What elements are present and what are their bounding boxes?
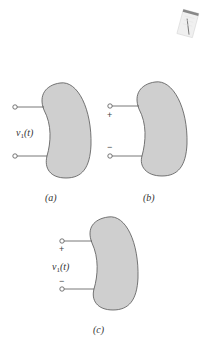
panel-a: v1(t) (a) xyxy=(13,83,91,204)
voltage-label: v1(t) xyxy=(52,261,70,274)
caption-a: (a) xyxy=(45,192,57,204)
terminal-bottom[interactable] xyxy=(108,154,112,158)
terminal-top[interactable] xyxy=(108,104,112,108)
minus-sign: − xyxy=(59,276,64,286)
circuit-figure: v1(t) (a) + − (b) + v1(t) − (c) xyxy=(0,0,211,339)
terminal-top[interactable] xyxy=(60,239,64,243)
voltage-label: v1(t) xyxy=(16,127,34,140)
panel-b: + − (b) xyxy=(107,82,187,204)
notepad-icon[interactable] xyxy=(177,9,199,37)
minus-sign: − xyxy=(107,142,112,152)
caption-c: (c) xyxy=(93,324,105,336)
plus-sign: + xyxy=(107,110,112,120)
plus-sign: + xyxy=(59,244,64,254)
caption-b: (b) xyxy=(143,192,155,204)
terminal-bottom[interactable] xyxy=(60,287,64,291)
network-blob xyxy=(42,83,91,178)
terminal-bottom[interactable] xyxy=(13,154,17,158)
network-blob xyxy=(90,217,138,310)
terminal-top[interactable] xyxy=(13,105,17,109)
network-blob xyxy=(137,82,187,176)
panel-c: + v1(t) − (c) xyxy=(52,217,138,336)
